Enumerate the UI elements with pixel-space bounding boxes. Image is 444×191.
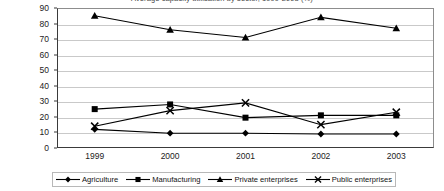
y-axis-tick-label: 0 — [44, 144, 49, 153]
y-axis: 0102030405060708090 — [0, 8, 53, 148]
x-axis-tick-label: 2001 — [236, 152, 255, 161]
y-axis-tick-label: 90 — [40, 4, 49, 13]
data-point-marker — [91, 12, 99, 19]
y-axis-tick-label: 80 — [40, 19, 49, 28]
data-point-marker — [393, 131, 400, 138]
data-point-marker — [318, 131, 325, 138]
data-series — [91, 126, 399, 137]
data-point-marker — [92, 106, 98, 112]
y-axis-tick-label: 40 — [40, 82, 49, 91]
legend-label: Agriculture — [82, 176, 118, 184]
legend-label: Manufacturing — [152, 176, 200, 184]
x-axis-tick-label: 2003 — [387, 152, 406, 161]
y-axis-tick-label: 10 — [40, 128, 49, 137]
legend-item: Private enterprises — [208, 175, 297, 184]
data-point-marker — [242, 130, 249, 137]
data-series — [91, 99, 400, 130]
y-axis-tick-label: 60 — [40, 50, 49, 59]
data-point-marker — [243, 115, 249, 121]
legend-item: Agriculture — [56, 175, 118, 184]
legend-item: Manufacturing — [126, 175, 200, 184]
legend-marker-cross-icon — [306, 175, 330, 184]
legend-item: Public enterprises — [306, 175, 392, 184]
y-axis-tick-label: 70 — [40, 35, 49, 44]
x-axis-tick-label: 2002 — [311, 152, 330, 161]
data-series — [91, 12, 400, 41]
y-axis-tick-label: 50 — [40, 66, 49, 75]
x-axis: 19992000200120022003 — [57, 152, 434, 166]
legend-label: Public enterprises — [332, 176, 392, 184]
series-layer — [57, 8, 434, 148]
y-axis-tick-label: 20 — [40, 113, 49, 122]
legend-label: Private enterprises — [234, 176, 297, 184]
x-axis-tick-label: 1999 — [85, 152, 104, 161]
legend-marker-square-icon — [126, 175, 150, 184]
line-chart: Average capacity utilisation by sector, … — [0, 0, 444, 191]
data-point-marker — [317, 14, 325, 21]
data-point-marker — [318, 112, 324, 118]
legend-marker-diamond-icon — [56, 175, 80, 184]
x-axis-tick-label: 2000 — [161, 152, 180, 161]
y-axis-tick-label: 30 — [40, 97, 49, 106]
legend-marker-triangle-icon — [208, 175, 232, 184]
data-point-marker — [167, 130, 174, 137]
data-point-marker — [167, 101, 173, 107]
chart-title: Average capacity utilisation by sector, … — [0, 0, 444, 3]
chart-legend: AgricultureManufacturingPrivate enterpri… — [52, 172, 396, 187]
